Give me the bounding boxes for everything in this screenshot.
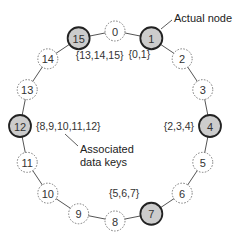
- node-label: 15: [73, 33, 85, 45]
- virtual-node-13: 13: [17, 80, 37, 100]
- virtual-node-8: 8: [105, 211, 125, 231]
- node-label: 7: [148, 208, 154, 220]
- actual-node-12: 12: [9, 115, 31, 137]
- associated-annotation-line2: data keys: [80, 156, 128, 168]
- actual-node-annotation: Actual node: [174, 12, 232, 24]
- node-label: 4: [207, 121, 213, 133]
- associated-annotation-line1: Associated: [80, 143, 134, 155]
- virtual-node-10: 10: [38, 183, 58, 203]
- key-set-label-node-15: {13,14,15}: [76, 49, 124, 61]
- node-label: 5: [200, 157, 206, 169]
- actual-node-7: 7: [140, 203, 162, 225]
- node-label: 0: [112, 26, 118, 38]
- actual-node-1: 1: [140, 27, 162, 49]
- node-label: 6: [179, 188, 185, 200]
- node-label: 11: [22, 157, 33, 169]
- key-set-label-node-1: {0,1}: [129, 48, 151, 60]
- node-label: 2: [179, 53, 185, 65]
- actual-node-4: 4: [199, 115, 221, 137]
- virtual-node-2: 2: [172, 49, 192, 69]
- virtual-node-14: 14: [38, 49, 58, 69]
- node-label: 14: [42, 53, 54, 65]
- node-label: 12: [14, 121, 26, 133]
- consistent-hashing-ring-diagram: 0123456789101112131415 {0,1}{2,3,4}{5,6,…: [0, 0, 240, 246]
- virtual-node-0: 0: [105, 21, 125, 41]
- virtual-node-6: 6: [172, 183, 192, 203]
- virtual-node-3: 3: [193, 80, 213, 100]
- key-labels: {0,1}{2,3,4}{5,6,7}{8,9,10,11,12}{13,14,…: [36, 48, 194, 199]
- node-label: 9: [76, 208, 82, 220]
- node-label: 10: [42, 188, 54, 200]
- data-keys-leader-line: [65, 134, 78, 146]
- virtual-node-5: 5: [193, 152, 213, 172]
- node-label: 13: [21, 84, 33, 96]
- actual-node-leader-line: [161, 20, 172, 29]
- key-set-label-node-12: {8,9,10,11,12}: [36, 120, 101, 132]
- key-set-label-node-7: {5,6,7}: [109, 187, 140, 199]
- key-set-label-node-4: {2,3,4}: [164, 120, 195, 132]
- virtual-node-11: 11: [17, 152, 37, 172]
- node-label: 3: [200, 84, 206, 96]
- actual-node-15: 15: [68, 27, 90, 49]
- node-label: 8: [112, 216, 118, 228]
- node-label: 1: [148, 33, 154, 45]
- virtual-node-9: 9: [69, 204, 89, 224]
